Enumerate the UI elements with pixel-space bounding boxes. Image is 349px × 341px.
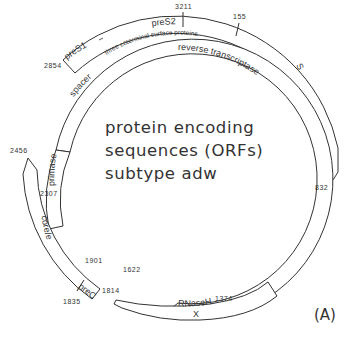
pos-3211: 3211	[175, 3, 192, 10]
pos-1374: 1374	[215, 295, 233, 302]
pos-1835: 1835	[63, 298, 81, 305]
pos-155: 155	[233, 13, 246, 20]
diagram-title: protein encoding sequences (ORFs) subtyp…	[105, 116, 263, 185]
pos-2456: 2456	[10, 147, 28, 154]
title-line-2: sequences (ORFs)	[105, 139, 263, 162]
pos-1814: 1814	[102, 287, 120, 294]
title-line-3: subtype adw	[105, 162, 263, 185]
pos-832: 832	[315, 184, 328, 191]
pos-2854: 2854	[44, 62, 62, 69]
pos-1622: 1622	[123, 266, 141, 273]
pos-1901: 1901	[85, 257, 103, 264]
label-x: X	[193, 309, 199, 319]
pos-2307: 2307	[40, 190, 58, 197]
title-line-1: protein encoding	[105, 116, 263, 139]
panel-label: (A)	[314, 306, 336, 324]
label-rnaseh: RNaseH	[178, 296, 212, 308]
